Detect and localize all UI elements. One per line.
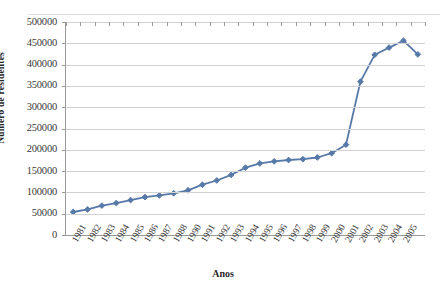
x-axis-tick-mark bbox=[181, 22, 182, 26]
x-axis-tick-mark bbox=[66, 22, 67, 26]
gridline bbox=[66, 214, 425, 215]
x-axis-tick-mark bbox=[210, 22, 211, 26]
y-axis-tick-label: 350000 bbox=[27, 80, 57, 91]
data-point-marker bbox=[300, 156, 306, 162]
x-axis-tick-mark bbox=[195, 22, 196, 26]
top-divider bbox=[28, 14, 440, 15]
gridline bbox=[66, 171, 425, 172]
y-axis-tick-mark bbox=[62, 43, 66, 44]
y-axis-tick-label: 400000 bbox=[27, 59, 57, 70]
x-axis-tick-mark bbox=[95, 22, 96, 26]
data-point-marker bbox=[286, 157, 292, 163]
y-axis-tick-label: 150000 bbox=[27, 166, 57, 177]
y-axis-tick-mark bbox=[62, 214, 66, 215]
x-axis-tick-mark bbox=[296, 22, 297, 26]
x-axis-title: Anos bbox=[0, 268, 446, 279]
x-axis-tick-mark bbox=[152, 22, 153, 26]
x-axis-tick-mark bbox=[325, 22, 326, 26]
x-axis-tick-mark bbox=[281, 22, 282, 26]
x-axis-tick-mark bbox=[353, 22, 354, 26]
y-axis-tick-label: 200000 bbox=[27, 144, 57, 155]
data-point-marker bbox=[214, 178, 220, 184]
y-axis-tick-label: 500000 bbox=[27, 17, 57, 28]
x-axis-tick-mark bbox=[167, 22, 168, 26]
data-point-marker bbox=[113, 200, 119, 206]
gridline bbox=[66, 22, 425, 23]
x-axis-tick-mark bbox=[138, 22, 139, 26]
data-point-marker bbox=[142, 194, 148, 200]
x-axis-tick-mark bbox=[310, 22, 311, 26]
data-point-marker bbox=[271, 158, 277, 164]
y-axis-tick-label: 250000 bbox=[27, 123, 57, 134]
gridline bbox=[66, 192, 425, 193]
gridline bbox=[66, 65, 425, 66]
y-axis-tick-mark bbox=[62, 150, 66, 151]
y-axis-tick-label: 50000 bbox=[32, 208, 57, 219]
data-point-marker bbox=[99, 203, 105, 209]
x-axis-tick-mark bbox=[396, 22, 397, 26]
x-axis-tick-mark bbox=[382, 22, 383, 26]
y-axis-tick-mark bbox=[62, 192, 66, 193]
x-axis-tick-mark bbox=[425, 22, 426, 26]
gridline bbox=[66, 150, 425, 151]
x-axis-tick-mark bbox=[368, 22, 369, 26]
data-point-marker bbox=[257, 161, 263, 167]
gridline bbox=[66, 129, 425, 130]
x-axis-tick-mark bbox=[267, 22, 268, 26]
plot-area bbox=[65, 22, 425, 236]
series-line-path bbox=[73, 41, 418, 212]
gridline bbox=[66, 43, 425, 44]
gridline bbox=[66, 86, 425, 87]
data-point-marker bbox=[314, 155, 320, 161]
y-axis-title: Número de residentes bbox=[0, 52, 12, 144]
x-axis-tick-mark bbox=[411, 22, 412, 26]
gridline bbox=[66, 107, 425, 108]
x-axis-tick-mark bbox=[339, 22, 340, 26]
x-axis-tick-mark bbox=[109, 22, 110, 26]
x-axis-tick-mark bbox=[253, 22, 254, 26]
y-axis-tick-label: 100000 bbox=[27, 187, 57, 198]
y-axis-tick-mark bbox=[62, 65, 66, 66]
y-axis-tick-mark bbox=[62, 129, 66, 130]
x-axis-tick-mark bbox=[238, 22, 239, 26]
data-point-marker bbox=[200, 182, 206, 188]
y-axis-tick-mark bbox=[62, 107, 66, 108]
y-axis-tick-mark bbox=[62, 171, 66, 172]
x-axis-tick-mark bbox=[123, 22, 124, 26]
x-axis-tick-mark bbox=[224, 22, 225, 26]
x-axis-tick-mark bbox=[80, 22, 81, 26]
y-axis-tick-mark bbox=[62, 86, 66, 87]
data-point-marker bbox=[243, 165, 249, 171]
chart-container: 0500001000001500002000002500003000003500… bbox=[0, 0, 446, 292]
data-point-marker bbox=[128, 197, 134, 203]
data-point-marker bbox=[85, 207, 91, 213]
y-axis-tick-label: 300000 bbox=[27, 102, 57, 113]
y-axis-tick-label: 450000 bbox=[27, 38, 57, 49]
